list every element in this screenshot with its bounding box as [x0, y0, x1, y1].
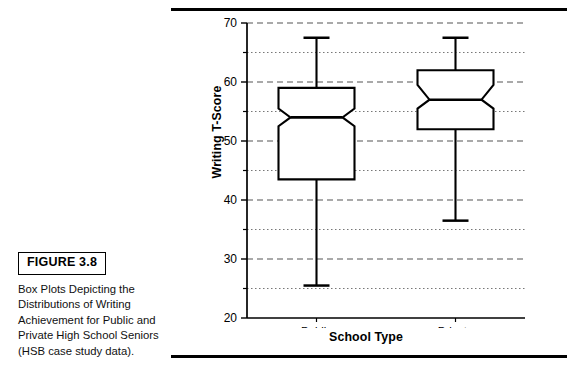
x-tick-label-private: Private [438, 325, 473, 328]
y-tick-label: 40 [224, 193, 238, 207]
y-tick-label: 50 [224, 134, 238, 148]
x-axis-title: School Type [190, 330, 542, 344]
y-tick-label: 60 [224, 75, 238, 89]
page-rule-top [171, 8, 567, 11]
box-outline-notched [279, 88, 355, 179]
box-group-public [279, 38, 355, 286]
boxplot-chart: Writing T-Score School Type 203040506070… [190, 18, 542, 348]
page-rule-bottom [171, 355, 567, 358]
boxplot-svg: 203040506070PublicPrivate [190, 18, 542, 328]
y-tick-label: 20 [224, 311, 238, 325]
figure-caption-block: FIGURE 3.8 Box Plots Depicting the Distr… [18, 252, 168, 359]
y-tick-label: 70 [224, 18, 238, 30]
x-tick-label-public: Public [301, 325, 332, 328]
box-group-private [418, 38, 494, 221]
figure-page: FIGURE 3.8 Box Plots Depicting the Distr… [0, 0, 571, 376]
figure-number-badge: FIGURE 3.8 [18, 252, 106, 275]
y-tick-label: 30 [224, 252, 238, 266]
figure-caption-text: Box Plots Depicting the Distributions of… [18, 282, 164, 359]
